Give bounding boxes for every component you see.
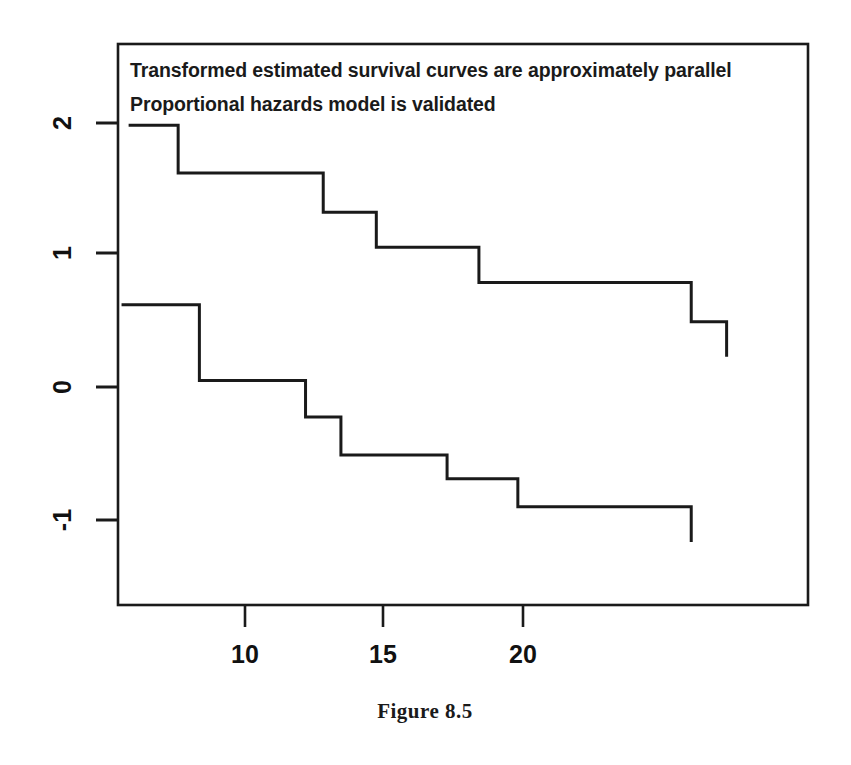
upper-survival-step-curve [129, 125, 727, 356]
y-tick-label-0: 0 [48, 380, 76, 394]
plot-frame [118, 44, 808, 605]
figure-container: 2 1 0 -1 10 15 20 Transformed estimated … [0, 0, 851, 765]
lower-survival-step-curve [122, 305, 692, 542]
x-axis-tick-labels: 10 15 20 [231, 640, 537, 668]
survival-curve-plot: 2 1 0 -1 10 15 20 Transformed estimated … [0, 0, 851, 765]
y-tick-label-minus1: -1 [48, 509, 76, 531]
annotation-line-1: Transformed estimated survival curves ar… [130, 59, 732, 81]
x-tick-label-20: 20 [509, 640, 537, 668]
x-tick-label-10: 10 [231, 640, 259, 668]
x-axis-ticks [245, 605, 523, 627]
annotation-line-2: Proportional hazards model is validated [130, 93, 496, 115]
x-tick-label-15: 15 [369, 640, 397, 668]
y-tick-label-1: 1 [48, 246, 76, 260]
y-axis-tick-labels: 2 1 0 -1 [48, 116, 76, 531]
y-tick-label-2: 2 [48, 116, 76, 130]
y-axis-ticks [96, 123, 118, 520]
figure-caption: Figure 8.5 [377, 699, 473, 723]
